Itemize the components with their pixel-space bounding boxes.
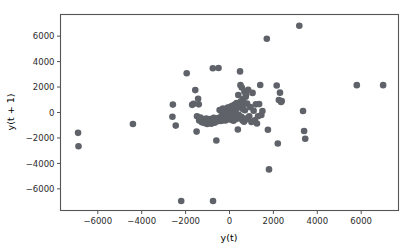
y-tick-label: −2000 xyxy=(26,133,55,143)
scatter-point xyxy=(195,101,202,108)
x-tick-label: −6000 xyxy=(83,216,112,226)
scatter-point xyxy=(210,65,217,72)
x-tick-label: 4000 xyxy=(306,216,328,226)
y-tick-label: 0 xyxy=(49,108,54,118)
scatter-point xyxy=(235,126,242,133)
scatter-point xyxy=(130,121,137,128)
y-tick-label: −4000 xyxy=(26,159,55,169)
scatter-point xyxy=(259,108,266,115)
scatter-point xyxy=(266,166,273,173)
y-tick-label: 4000 xyxy=(33,57,55,67)
y-tick-label: −6000 xyxy=(26,184,55,194)
x-axis-label: y(t) xyxy=(221,232,238,243)
y-axis-label: y(t + 1) xyxy=(5,94,16,131)
scatter-point xyxy=(264,35,271,42)
scatter-point xyxy=(169,113,176,120)
scatter-point xyxy=(213,137,220,144)
scatter-point xyxy=(172,122,179,129)
x-tick-label: 0 xyxy=(227,216,232,226)
scatter-point xyxy=(277,89,284,96)
plot-canvas: −6000−4000−20000200040006000 −6000−4000−… xyxy=(0,0,416,248)
scatter-plot-figure: −6000−4000−20000200040006000 −6000−4000−… xyxy=(0,0,416,248)
x-tick-label: 2000 xyxy=(263,216,285,226)
scatter-point xyxy=(249,90,256,97)
scatter-point xyxy=(278,98,285,105)
scatter-point xyxy=(210,198,217,205)
scatter-point xyxy=(302,135,309,142)
scatter-point xyxy=(192,87,199,94)
y-tick-label: 6000 xyxy=(33,31,55,41)
scatter-point xyxy=(296,22,303,29)
y-tick-label: 2000 xyxy=(33,82,55,92)
scatter-point xyxy=(380,82,387,89)
scatter-point xyxy=(195,95,202,102)
scatter-point xyxy=(250,107,257,114)
scatter-point xyxy=(257,82,264,89)
scatter-point xyxy=(75,130,82,137)
scatter-point xyxy=(215,65,222,72)
scatter-point xyxy=(301,128,308,135)
scatter-point xyxy=(193,128,200,135)
x-tick-label: 6000 xyxy=(350,216,372,226)
scatter-point xyxy=(178,198,185,205)
scatter-point xyxy=(265,127,272,134)
scatter-point xyxy=(237,68,244,75)
scatter-point xyxy=(354,82,361,89)
scatter-point xyxy=(170,101,177,108)
scatter-point xyxy=(256,101,263,108)
scatter-point xyxy=(75,143,82,150)
scatter-point xyxy=(254,120,261,127)
scatter-point xyxy=(300,108,307,115)
scatter-point xyxy=(183,70,190,77)
x-tick-label: −2000 xyxy=(171,216,200,226)
scatter-point xyxy=(273,82,280,89)
x-tick-label: −4000 xyxy=(127,216,156,226)
scatter-point xyxy=(274,140,281,147)
